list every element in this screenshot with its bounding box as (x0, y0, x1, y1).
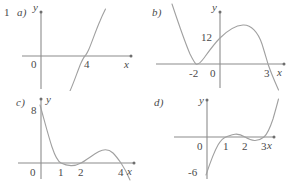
xtick-d-2: 2 (242, 140, 248, 152)
panel-a: a) y x 0 4 (0, 0, 148, 91)
curve-b (172, 4, 279, 90)
x-axis-tip-b (283, 63, 286, 66)
y-axis-label-d: y (198, 94, 204, 106)
xtick-c-4: 4 (118, 166, 124, 178)
y-axis-label-c: y (45, 93, 51, 105)
x-axis-label-a: x (123, 58, 129, 70)
curve-c (40, 105, 130, 180)
y-axis-tip-a (40, 11, 43, 14)
xtick-d-1: 1 (223, 140, 229, 152)
graph-d: y x 0 1 2 3 -6 (148, 91, 296, 182)
xtick-a-4: 4 (84, 58, 90, 70)
ytick-c-8: 8 (31, 104, 37, 116)
figure-sheet: 1 a) y x 0 4 b) (0, 0, 296, 182)
y-axis-label-a: y (32, 1, 38, 13)
xtick-c-2: 2 (78, 166, 84, 178)
panel-a-label: a) (17, 6, 27, 18)
x-axis-tip-a (130, 55, 133, 58)
y-axis-tip-c (40, 98, 43, 101)
panel-b-label: b) (152, 6, 162, 18)
panel-d: d) y x 0 1 2 3 -6 (148, 91, 296, 182)
y-axis-tip-d (206, 99, 209, 102)
panel-c: c) y x 0 1 2 4 8 (0, 91, 148, 182)
curve-a (70, 9, 106, 91)
x-axis-label-b: x (276, 66, 282, 78)
xtick-c-1: 1 (58, 166, 64, 178)
xtick-b-3: 3 (264, 67, 270, 79)
panel-d-label: d) (154, 96, 164, 108)
ytick-b-12: 12 (201, 31, 212, 43)
panel-c-label: c) (16, 96, 25, 108)
ytick-d-neg6: -6 (188, 166, 198, 178)
y-axis-tip-b (219, 11, 222, 14)
x-axis-label-c: x (126, 165, 132, 177)
y-axis-label-b: y (211, 1, 217, 13)
x-axis-tip-c (133, 162, 136, 165)
origin-label-c: 0 (30, 166, 36, 178)
panel-b: b) y x 0 -2 3 12 (148, 0, 296, 91)
origin-label-d: 0 (197, 140, 203, 152)
graph-b: y x 0 -2 3 12 (148, 0, 296, 91)
xtick-d-3: 3 (261, 140, 267, 152)
xtick-b-neg2: -2 (189, 67, 198, 79)
x-axis-label-d: x (266, 139, 272, 151)
origin-label-a: 0 (31, 58, 37, 70)
x-axis-tip-d (273, 136, 276, 139)
origin-label-b: 0 (210, 67, 216, 79)
